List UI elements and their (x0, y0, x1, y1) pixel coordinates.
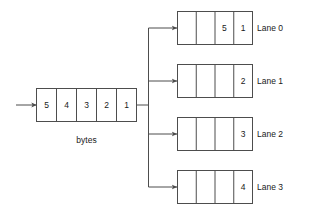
lane-0-cell-value: 5 (222, 23, 227, 33)
bytes-cell-value: 4 (64, 100, 69, 110)
bytes-cell-value: 2 (104, 100, 109, 110)
bytes-cell-value: 3 (84, 100, 89, 110)
lane-2-cell-value: 3 (241, 129, 246, 139)
lane-1-cell-value: 2 (241, 76, 246, 86)
lane-3-label: Lane 3 (257, 182, 283, 192)
diagram-root: 5 4 3 2 1 bytes 5 1 Lane 0 (0, 0, 309, 218)
lane-3-cell-value: 4 (241, 182, 246, 192)
lane-2-box: 3 (178, 118, 253, 151)
bytes-cell-value: 5 (44, 100, 49, 110)
bytes-box: 5 4 3 2 1 (37, 89, 137, 122)
bytes-cell-value: 1 (124, 100, 129, 110)
lane-2-label: Lane 2 (257, 129, 283, 139)
bytes-caption: bytes (76, 135, 96, 145)
diagram-canvas: 5 4 3 2 1 bytes 5 1 Lane 0 (0, 0, 309, 218)
lane-0-label: Lane 0 (257, 23, 283, 33)
lane-1-box: 2 (178, 65, 253, 98)
lane-0-box: 5 1 (178, 12, 253, 45)
lane-1-label: Lane 1 (257, 76, 283, 86)
lane-3-box: 4 (178, 171, 253, 204)
lane-0-cell-value: 1 (241, 23, 246, 33)
